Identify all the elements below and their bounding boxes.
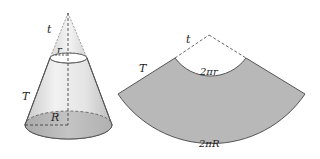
diagram-canvas: t r T R t T 2πr 2πR xyxy=(0,0,320,159)
label-inner-arc: 2πr xyxy=(199,66,219,77)
net-dashed-left xyxy=(175,35,209,58)
label-cone-R: R xyxy=(50,111,59,124)
label-outer-arc: 2πR xyxy=(198,138,220,149)
label-cone-t: t xyxy=(47,23,52,36)
label-net-t: t xyxy=(186,33,191,46)
cone-figure: t r T R xyxy=(22,13,112,139)
net-dashed-right xyxy=(209,35,246,58)
frustum-net: t T 2πr 2πR xyxy=(118,33,305,149)
label-net-T: T xyxy=(139,62,148,75)
label-cone-T: T xyxy=(22,90,31,103)
